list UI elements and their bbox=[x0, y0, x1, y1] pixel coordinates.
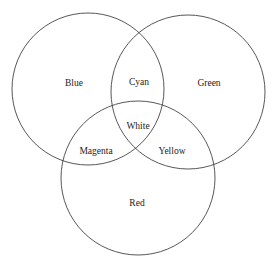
label-magenta: Magenta bbox=[79, 146, 113, 156]
label-yellow: Yellow bbox=[158, 146, 185, 156]
label-cyan: Cyan bbox=[129, 77, 149, 87]
venn-diagram: Blue Cyan Green White Magenta Yellow Red bbox=[0, 0, 274, 266]
label-red: Red bbox=[129, 198, 145, 208]
label-blue: Blue bbox=[65, 78, 83, 88]
label-green: Green bbox=[197, 78, 220, 88]
blue-circle bbox=[12, 13, 164, 165]
label-white: White bbox=[126, 121, 149, 131]
green-circle bbox=[111, 15, 265, 169]
